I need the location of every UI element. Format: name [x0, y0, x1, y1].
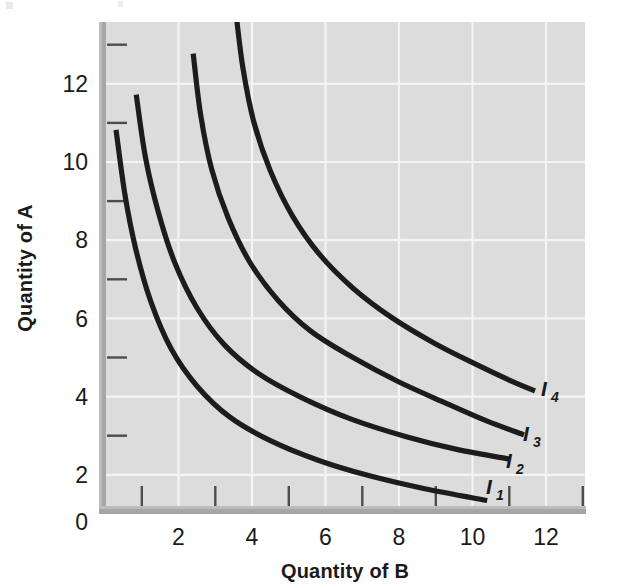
figure-container: 12 10 8 6 4 2 0 2 4 6 8 10 12 I	[0, 0, 626, 588]
x-tick-labels: 2 4 6 8 10 12	[172, 524, 559, 550]
x-tick-label: 12	[533, 524, 559, 550]
y-tick-label: 12	[62, 71, 88, 97]
x-axis-title: Quantity of B	[281, 560, 409, 582]
curve-label-i3-subscript: 3	[533, 434, 541, 450]
x-tick-label: 2	[172, 524, 185, 550]
y-tick-label: 10	[62, 149, 88, 175]
x-tick-label: 6	[319, 524, 332, 550]
y-tick-label: 6	[75, 306, 88, 332]
curve-label-i1-subscript: 1	[496, 487, 504, 503]
x-tick-label: 10	[460, 524, 486, 550]
y-axis-spine-highlight	[99, 22, 102, 513]
curve-label-i2-subscript: 2	[515, 461, 524, 477]
y-tick-label: 4	[75, 384, 88, 410]
y-tick-label: 8	[75, 227, 88, 253]
x-axis-spine-highlight	[99, 506, 586, 509]
y-tick-label: 2	[75, 462, 88, 488]
x-tick-label: 4	[246, 524, 259, 550]
y-tick-labels: 12 10 8 6 4 2 0	[62, 71, 88, 535]
y-tick-label: 0	[75, 509, 88, 535]
indifference-curve-chart: 12 10 8 6 4 2 0 2 4 6 8 10 12 I	[0, 0, 626, 588]
curve-label-i4-subscript: 4	[550, 389, 559, 405]
y-axis-title: Quantity of A	[14, 204, 36, 331]
x-tick-label: 8	[393, 524, 406, 550]
